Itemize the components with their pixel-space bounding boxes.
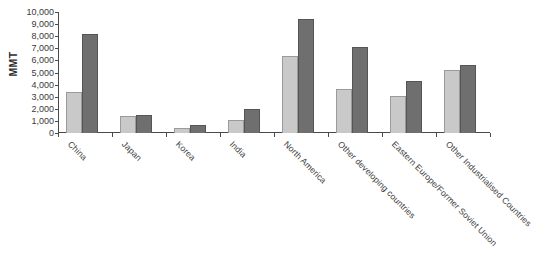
x-axis-category-label: Other Industrialised Countries: [444, 139, 534, 229]
y-axis-tick-label: 3,000: [31, 92, 54, 102]
y-axis-tick-mark: [55, 85, 58, 86]
x-axis-tick-mark: [112, 133, 113, 137]
y-axis-tick-mark: [55, 60, 58, 61]
plot-area: 10,0009,0008,0007,0006,0005,0004,0003,00…: [58, 12, 490, 133]
bar: [460, 65, 476, 133]
y-axis-tick-mark: [55, 73, 58, 74]
y-axis-tick-mark: [55, 97, 58, 98]
y-axis-tick-mark: [55, 24, 58, 25]
bar: [406, 81, 422, 133]
y-axis-tick-label: 9,000: [31, 19, 54, 29]
x-axis-tick-mark: [166, 133, 167, 137]
bar: [282, 56, 298, 133]
bar: [390, 96, 406, 133]
bar: [244, 109, 260, 133]
y-axis-tick-mark: [55, 109, 58, 110]
y-axis-tick-label: 7,000: [31, 43, 54, 53]
bar: [336, 89, 352, 133]
y-axis-tick-label: 4,000: [31, 80, 54, 90]
x-axis-category-label: Japan: [120, 139, 144, 163]
bar: [136, 115, 152, 133]
x-axis-category-label: China: [66, 139, 89, 162]
y-axis-tick-mark: [55, 12, 58, 13]
bar: [120, 116, 136, 133]
y-axis-tick-mark: [55, 36, 58, 37]
bar: [444, 70, 460, 133]
x-axis-category-label: Korea: [174, 139, 198, 163]
x-axis-tick-mark: [274, 133, 275, 137]
y-axis-tick-label: 5,000: [31, 68, 54, 78]
y-axis-tick-label: 2,000: [31, 104, 54, 114]
y-axis-tick-label: 10,000: [26, 7, 54, 17]
y-axis-tick-mark: [55, 121, 58, 122]
x-axis-category-label: North America: [282, 139, 328, 185]
y-axis-tick-label: 1,000: [31, 116, 54, 126]
bar: [190, 125, 206, 133]
x-axis-tick-mark: [436, 133, 437, 137]
y-axis-tick-label: 6,000: [31, 55, 54, 65]
bar: [174, 128, 190, 133]
bar: [298, 19, 314, 133]
x-axis-category-label: Eastern Europe/Former Soviet Union: [390, 139, 499, 248]
y-axis-title: MMT: [7, 40, 19, 88]
bar: [228, 120, 244, 133]
x-axis-tick-mark: [220, 133, 221, 137]
x-axis-tick-mark: [328, 133, 329, 137]
y-axis-line: [58, 12, 59, 133]
x-axis-tick-mark: [382, 133, 383, 137]
x-axis-tick-mark: [490, 133, 491, 137]
x-axis-tick-mark: [58, 133, 59, 137]
y-axis-tick-label: 0: [49, 128, 54, 138]
bar: [352, 47, 368, 134]
y-axis-tick-label: 8,000: [31, 31, 54, 41]
bar: [82, 34, 98, 133]
y-axis-tick-mark: [55, 48, 58, 49]
x-axis-category-label: India: [228, 139, 249, 160]
bar: [66, 92, 82, 133]
